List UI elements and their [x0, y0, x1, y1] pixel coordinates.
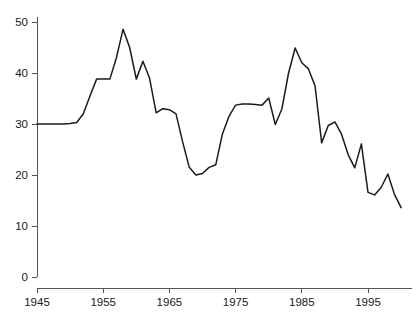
x-tick-label: 1945 [24, 296, 50, 308]
x-axis-tick-labels: 194519551965197519851995 [24, 296, 381, 308]
x-tick-label: 1965 [157, 296, 183, 308]
x-axis: 194519551965197519851995 [24, 288, 412, 308]
x-tick-label: 1985 [289, 296, 315, 308]
x-axis-ticks [37, 288, 368, 293]
x-tick-label: 1995 [355, 296, 381, 308]
y-tick-label: 10 [15, 220, 28, 232]
line-chart: 01020304050 194519551965197519851995 [0, 0, 420, 318]
x-tick-label: 1975 [223, 296, 249, 308]
chart-canvas: 01020304050 194519551965197519851995 [0, 0, 420, 318]
plot-area [37, 29, 401, 208]
y-tick-label: 50 [15, 16, 28, 28]
y-tick-label: 0 [22, 271, 28, 283]
y-axis: 01020304050 [15, 16, 37, 283]
y-tick-label: 20 [15, 169, 28, 181]
data-series-line [37, 29, 401, 208]
x-tick-label: 1955 [90, 296, 116, 308]
y-axis-ticks [32, 22, 37, 277]
y-tick-label: 30 [15, 118, 28, 130]
y-tick-label: 40 [15, 67, 28, 79]
y-axis-tick-labels: 01020304050 [15, 16, 28, 283]
